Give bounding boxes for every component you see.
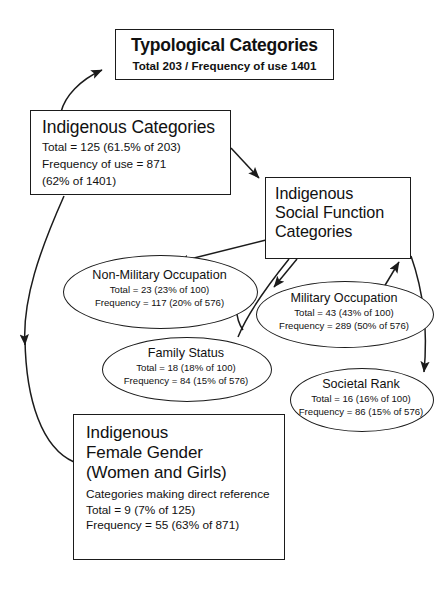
non-military-text: Non-Military Occupation Total = 23 (23% … — [63, 268, 256, 310]
edge-indigenous-categories-to-female-gender — [25, 196, 64, 345]
non-military-total: Total = 23 (23% of 100) — [63, 284, 256, 296]
node-family-status[interactable]: Family Status Total = 18 (18% of 100) Fr… — [102, 337, 270, 400]
societal-rank-title: Societal Rank — [290, 377, 432, 392]
family-status-total: Total = 18 (18% of 100) — [102, 362, 270, 374]
node-non-military-occupation[interactable]: Non-Military Occupation Total = 23 (23% … — [63, 255, 256, 327]
military-frequency: Frequency = 289 (50% of 576) — [256, 320, 432, 332]
social-function-title-line3: Categories — [275, 222, 410, 241]
social-function-title-line2: Social Function — [275, 203, 410, 222]
node-indigenous-categories[interactable]: Indigenous Categories Total = 125 (61.5%… — [30, 110, 231, 195]
female-gender-title-line2: Female Gender — [86, 443, 284, 463]
node-military-occupation[interactable]: Military Occupation Total = 43 (43% of 1… — [256, 281, 432, 346]
female-gender-title-line3: (Women and Girls) — [86, 463, 284, 483]
family-status-title: Family Status — [102, 346, 270, 361]
non-military-title: Non-Military Occupation — [63, 268, 256, 283]
typological-stats: Total 203 / Frequency of use 1401 — [125, 58, 324, 73]
family-status-text: Family Status Total = 18 (18% of 100) Fr… — [102, 346, 270, 388]
typological-title: Typological Categories — [125, 35, 324, 56]
indigenous-categories-title: Indigenous Categories — [42, 117, 230, 138]
societal-rank-total: Total = 16 (16% of 100) — [290, 393, 432, 405]
female-gender-total: Total = 9 (7% of 125) — [86, 503, 284, 518]
family-status-frequency: Frequency = 84 (15% of 576) — [102, 375, 270, 387]
edge-female-gender-lower-curve — [25, 340, 74, 462]
non-military-frequency: Frequency = 117 (20% of 576) — [63, 297, 256, 309]
indigenous-categories-total: Total = 125 (61.5% of 203) — [42, 140, 230, 155]
female-gender-subtitle: Categories making direct reference — [86, 487, 284, 503]
edge-indigenous-categories-to-typological — [61, 70, 102, 112]
military-text: Military Occupation Total = 43 (43% of 1… — [256, 291, 432, 333]
societal-rank-frequency: Frequency = 86 (15% of 576) — [290, 406, 432, 418]
social-function-title-line1: Indigenous — [275, 184, 410, 203]
diagram-canvas: Typological Categories Total 203 / Frequ… — [0, 0, 447, 592]
indigenous-categories-frequency-percent: (62% of 1401) — [42, 174, 230, 189]
female-gender-title-line1: Indigenous — [86, 423, 284, 443]
node-typological-categories[interactable]: Typological Categories Total 203 / Frequ… — [115, 29, 334, 80]
societal-rank-text: Societal Rank Total = 16 (16% of 100) Fr… — [290, 377, 432, 419]
node-indigenous-female-gender[interactable]: Indigenous Female Gender (Women and Girl… — [73, 414, 285, 560]
node-indigenous-social-function-categories[interactable]: Indigenous Social Function Categories — [265, 177, 411, 259]
edge-indigenous-categories-to-social-function — [231, 148, 259, 178]
indigenous-categories-frequency: Frequency of use = 871 — [42, 157, 230, 172]
military-title: Military Occupation — [256, 291, 432, 306]
military-total: Total = 43 (43% of 100) — [256, 307, 432, 319]
node-societal-rank[interactable]: Societal Rank Total = 16 (16% of 100) Fr… — [290, 368, 432, 430]
female-gender-frequency: Frequency = 55 (63% of 871) — [86, 518, 284, 533]
